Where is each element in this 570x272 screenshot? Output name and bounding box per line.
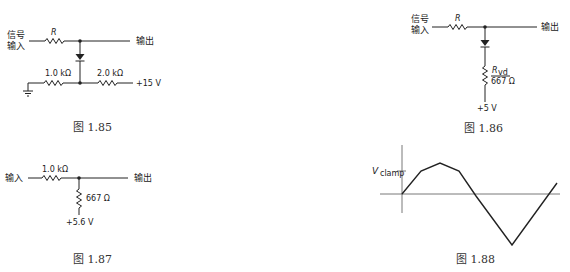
- figure-1-88: V clamp 图 1.88: [372, 145, 560, 266]
- figure-caption: 图 1.85: [73, 121, 112, 134]
- resistor-r-icon: [45, 39, 64, 44]
- resistor-thevenin-value: 667 Ω: [491, 77, 515, 86]
- figure-1-86: 信号 输入 R 输出 R vd 667 Ω +5 V 图 1.86: [411, 13, 559, 135]
- ground-icon: [23, 91, 33, 96]
- figure-1-85: 信号 输入 R 输出 1.0 kΩ 2.0 kΩ +15 V 图 1.85: [7, 28, 161, 134]
- resistor-2k-icon: [98, 81, 117, 86]
- resistor-thevenin-symbol: R: [492, 66, 498, 75]
- resistor-667-label: 667 Ω: [86, 194, 110, 203]
- resistor-2k-label: 2.0 kΩ: [97, 69, 123, 78]
- resistor-thevenin-icon: [483, 66, 488, 85]
- output-label: 输出: [134, 172, 152, 183]
- diagram-canvas: 信号 输入 R 输出 1.0 kΩ 2.0 kΩ +15 V 图 1.85: [0, 0, 570, 272]
- supply-label: +5 V: [477, 104, 497, 113]
- resistor-1k-icon: [44, 81, 63, 86]
- figure-caption: 图 1.88: [456, 253, 495, 266]
- input-label-line1: 信号: [7, 29, 25, 40]
- figure-caption: 图 1.87: [73, 253, 112, 266]
- resistor-1k-label: 1.0 kΩ: [42, 165, 68, 174]
- supply-label: +5.6 V: [66, 218, 94, 227]
- clamped-waveform: [402, 163, 557, 245]
- output-label: 输出: [136, 35, 154, 46]
- resistor-r-label: R: [455, 14, 461, 23]
- resistor-r-icon: [448, 25, 467, 30]
- supply-label: +15 V: [136, 79, 161, 88]
- resistor-667-icon: [77, 189, 82, 208]
- resistor-1k-label: 1.0 kΩ: [45, 69, 71, 78]
- output-label: 输出: [541, 21, 559, 32]
- resistor-1k-icon: [42, 176, 61, 181]
- diode-icon: [76, 54, 85, 60]
- input-label: 输入: [5, 172, 23, 183]
- figure-1-87: 输入 1.0 kΩ 输出 667 Ω +5.6 V 图 1.87: [5, 165, 152, 266]
- diode-icon: [481, 40, 490, 46]
- resistor-r-label: R: [51, 28, 57, 37]
- vclamp-label-sub: clamp: [380, 169, 404, 178]
- input-label-line1: 信号: [411, 13, 429, 24]
- input-label-line2: 输入: [411, 24, 429, 35]
- input-label-line2: 输入: [7, 40, 25, 51]
- vclamp-label-main: V: [372, 166, 379, 176]
- figure-caption: 图 1.86: [464, 122, 503, 135]
